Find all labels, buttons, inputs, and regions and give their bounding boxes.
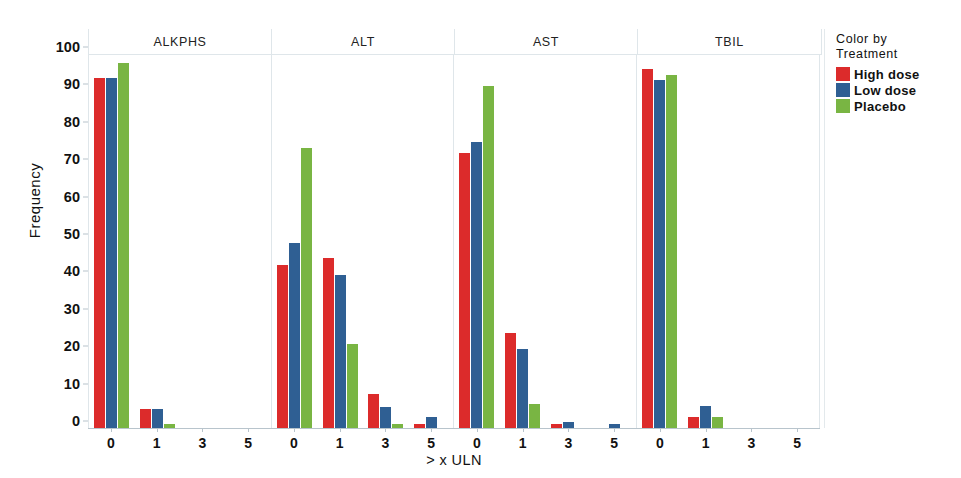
bar[interactable]	[517, 349, 528, 428]
x-tick-mark	[660, 428, 661, 432]
legend-items: High doseLow dosePlacebo	[836, 66, 956, 114]
legend-item[interactable]: Placebo	[836, 98, 956, 114]
x-axis-tick-labels: 0135013501350135	[88, 428, 820, 454]
y-axis-tick-labels: 0102030405060708090100	[44, 47, 88, 428]
bar[interactable]	[140, 409, 151, 428]
x-tick-mark	[340, 428, 341, 432]
legend-swatch-icon	[836, 99, 850, 113]
y-tick-label: 80	[40, 114, 80, 130]
legend-item-label: High dose	[854, 67, 920, 82]
x-tick-label: 3	[198, 435, 206, 451]
panel-ast	[454, 54, 637, 428]
x-tick-mark	[523, 428, 524, 432]
bar-group	[682, 54, 728, 428]
bar[interactable]	[459, 153, 470, 428]
y-tick-label: 10	[40, 376, 80, 392]
x-tick-mark	[385, 428, 386, 432]
legend-item-label: Placebo	[854, 99, 906, 114]
y-tick-label: 0	[40, 413, 80, 429]
bar[interactable]	[335, 275, 346, 428]
chart-legend: Color by Treatment High doseLow dosePlac…	[836, 32, 956, 114]
x-tick-label: 3	[747, 435, 755, 451]
x-tick-label: 3	[381, 435, 389, 451]
legend-item[interactable]: Low dose	[836, 82, 956, 98]
x-tick-label: 0	[107, 435, 115, 451]
legend-divider	[824, 29, 825, 428]
x-tick-label: 0	[290, 435, 298, 451]
plot-area	[88, 54, 820, 428]
bar[interactable]	[277, 265, 288, 428]
x-tick-label: 0	[656, 435, 664, 451]
legend-swatch-icon	[836, 67, 850, 81]
x-tick-label: 0	[473, 435, 481, 451]
bar[interactable]	[118, 63, 129, 428]
bar[interactable]	[301, 148, 312, 429]
bar[interactable]	[380, 407, 391, 428]
panel-header-ast: AST	[455, 29, 638, 54]
legend-item[interactable]: High dose	[836, 66, 956, 82]
bar[interactable]	[471, 142, 482, 428]
y-tick-label: 100	[40, 39, 80, 55]
bar[interactable]	[323, 258, 334, 428]
bar-group	[454, 54, 500, 428]
bar-group	[272, 54, 318, 428]
bar[interactable]	[347, 344, 358, 428]
y-tick-label: 30	[40, 301, 80, 317]
bar[interactable]	[700, 406, 711, 428]
panel-header-alt: ALT	[272, 29, 455, 54]
bar[interactable]	[666, 75, 677, 428]
x-tick-mark	[706, 428, 707, 432]
x-tick-label: 5	[610, 435, 618, 451]
legend-title-line-2: Treatment	[836, 47, 956, 62]
x-tick-label: 5	[793, 435, 801, 451]
bar[interactable]	[94, 78, 105, 428]
x-tick-label: 1	[153, 435, 161, 451]
bar[interactable]	[712, 417, 723, 428]
bar[interactable]	[289, 243, 300, 428]
bar-group	[546, 54, 592, 428]
y-tick-label: 40	[40, 263, 80, 279]
x-tick-mark	[477, 428, 478, 432]
bar[interactable]	[106, 78, 117, 428]
bar-group	[317, 54, 363, 428]
x-tick-label: 3	[564, 435, 572, 451]
bar[interactable]	[152, 409, 163, 428]
x-tick-mark	[568, 428, 569, 432]
x-tick-mark	[797, 428, 798, 432]
x-axis-title: > x ULN	[88, 452, 820, 468]
bar[interactable]	[505, 333, 516, 428]
y-tick-label: 70	[40, 151, 80, 167]
x-tick-mark	[248, 428, 249, 432]
bar-group	[226, 54, 272, 428]
y-tick-label: 60	[40, 189, 80, 205]
bar[interactable]	[483, 86, 494, 428]
legend-swatch-icon	[836, 83, 850, 97]
bar[interactable]	[688, 417, 699, 428]
bar-group	[363, 54, 409, 428]
bar-group	[728, 54, 774, 428]
y-tick-label: 20	[40, 338, 80, 354]
bar-group	[500, 54, 546, 428]
x-tick-label: 5	[427, 435, 435, 451]
panel-header-alkphs: ALKPHS	[89, 29, 272, 54]
bar-group	[591, 54, 637, 428]
bar-group	[774, 54, 820, 428]
bar-group	[637, 54, 683, 428]
frequency-bar-chart: Frequency 0102030405060708090100 ALKPHSA…	[0, 0, 961, 478]
bar[interactable]	[654, 80, 665, 428]
panel-alkphs	[89, 54, 272, 428]
bar[interactable]	[642, 69, 653, 428]
panel-tbil	[637, 54, 820, 428]
bar[interactable]	[529, 404, 540, 428]
y-tick-label: 50	[40, 226, 80, 242]
bar[interactable]	[426, 417, 437, 428]
bar[interactable]	[368, 394, 379, 428]
x-tick-label: 1	[702, 435, 710, 451]
x-tick-label: 5	[244, 435, 252, 451]
panel-header-tbil: TBIL	[638, 29, 821, 54]
bar-group	[89, 54, 135, 428]
x-tick-label: 1	[519, 435, 527, 451]
panel-header-strip: ALKPHSALTASTTBIL	[88, 29, 822, 55]
x-tick-mark	[431, 428, 432, 432]
bar-group	[409, 54, 455, 428]
